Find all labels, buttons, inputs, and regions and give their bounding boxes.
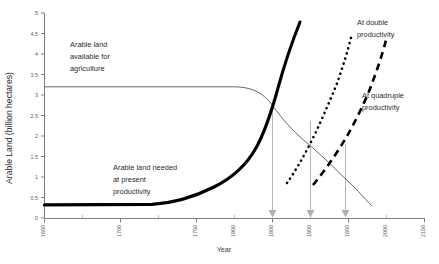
y-tick-label: 2 — [35, 133, 38, 139]
series-double-productivity — [287, 34, 352, 183]
chart-container: 0 0.5 1 1.5 2 2.5 3 3.5 4 4.5 5 1650 — [0, 0, 439, 264]
x-tick-label: 2150 — [420, 225, 426, 237]
crossing-indicators — [269, 106, 350, 218]
x-tick-label: 1650 — [40, 225, 46, 237]
y-tick-label: 5 — [35, 10, 38, 16]
y-tick-label: 2.5 — [31, 113, 39, 119]
annotation-available: Arable land available for agriculture — [70, 40, 110, 73]
annotation-available-line-2: available for — [70, 52, 110, 61]
y-axis-ticks: 0 0.5 1 1.5 2 2.5 3 3.5 4 4.5 5 — [31, 10, 45, 221]
annotation-double-line-1: At double — [357, 18, 388, 27]
crossing-indicator-double — [307, 121, 315, 218]
y-tick-label: 0 — [35, 215, 38, 221]
y-tick-label: 0.5 — [31, 195, 39, 201]
annotation-present: Arable land needed at present productivi… — [113, 163, 177, 196]
y-tick-label: 3 — [35, 92, 38, 98]
y-tick-label: 1.5 — [31, 154, 39, 160]
crossing-indicator-present — [269, 106, 277, 218]
y-tick-label: 1 — [35, 174, 38, 180]
crossing-indicator-quadruple — [342, 144, 350, 218]
annotation-available-line-3: agriculture — [70, 64, 105, 73]
x-tick-label: 1950 — [306, 225, 312, 237]
x-tick-label: 1850 — [344, 225, 350, 237]
annotation-present-line-1: Arable land needed — [113, 163, 177, 172]
series-present-productivity — [45, 22, 301, 205]
x-tick-label: 1900 — [230, 225, 236, 237]
y-tick-label: 4 — [35, 51, 38, 57]
y-tick-label: 4.5 — [31, 31, 39, 37]
x-tick-label: 1700 — [116, 225, 122, 237]
annotation-quadruple-line-1: At quadruple — [362, 91, 404, 100]
arable-land-chart: 0 0.5 1 1.5 2 2.5 3 3.5 4 4.5 5 1650 — [0, 0, 439, 264]
x-tick-label: 2000 — [382, 225, 388, 237]
x-tick-label: 1750 — [192, 225, 198, 237]
y-tick-label: 3.5 — [31, 72, 39, 78]
x-tick-label: 1800 — [268, 225, 274, 237]
y-axis-title: Arable Land (billion hectares) — [4, 72, 14, 184]
annotation-present-line-3: productivity — [113, 187, 151, 196]
x-axis-title: Year — [217, 245, 232, 254]
annotation-double-line-2: productivity — [357, 30, 395, 39]
annotation-double: At double productivity — [357, 18, 395, 39]
annotation-quadruple: At quadruple productivity — [362, 91, 404, 112]
annotation-available-line-1: Arable land — [70, 40, 107, 49]
annotation-quadruple-line-2: productivity — [362, 103, 400, 112]
x-axis-tick-labels-extra: 1900 1950 2000 — [230, 225, 388, 237]
annotation-present-line-2: at present — [113, 175, 146, 184]
